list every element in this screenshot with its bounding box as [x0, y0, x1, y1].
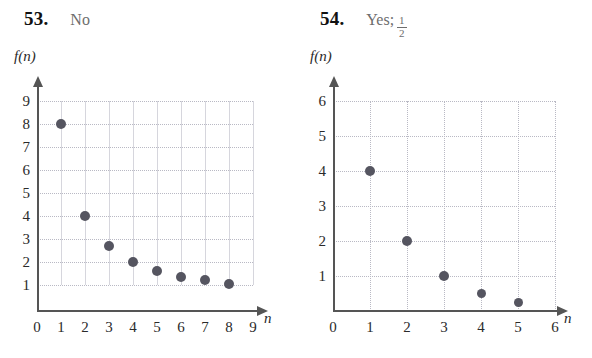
- x-tick-8: 8: [221, 320, 237, 335]
- y-tick-4: 4: [14, 209, 30, 224]
- data-point: [439, 271, 449, 281]
- x-axis-arrow-54: [557, 306, 568, 316]
- data-point: [200, 275, 210, 285]
- data-point: [365, 166, 375, 176]
- gridline-x-2: [85, 101, 86, 285]
- gridline-x-7: [205, 101, 206, 285]
- y-tick-2: 2: [14, 255, 30, 270]
- gridline-x-9: [253, 101, 254, 285]
- x-tick-6: 6: [173, 320, 189, 335]
- x-axis-line-53: [37, 310, 259, 312]
- data-point: [152, 266, 162, 276]
- y-tick-8: 8: [14, 117, 30, 132]
- data-point: [224, 279, 234, 289]
- data-point: [514, 298, 523, 307]
- x-tick-5: 5: [510, 320, 526, 335]
- y-tick-9: 9: [14, 94, 30, 109]
- y-axis-title-53: f(n): [14, 48, 36, 65]
- y-tick-6: 6: [14, 163, 30, 178]
- exercise-number: 54.: [320, 8, 344, 30]
- data-point: [128, 257, 138, 267]
- exercise-answer: Yes; 1 2: [366, 11, 406, 40]
- answer-text: Yes;: [366, 11, 394, 29]
- data-point: [104, 241, 114, 251]
- x-tick-1: 1: [53, 320, 69, 335]
- y-tick-1: 1: [310, 269, 326, 284]
- data-point: [402, 236, 412, 246]
- gridline-y-5: [37, 193, 253, 194]
- exercise-panel-53: 53. No f(n) n 9 8 7 6: [0, 0, 296, 358]
- gridline-y-9: [37, 101, 253, 102]
- x-tick-3: 3: [436, 320, 452, 335]
- exercise-number: 53.: [24, 8, 48, 30]
- x-tick-6: 6: [547, 320, 563, 335]
- gridline-y-4: [37, 216, 253, 217]
- gridline-y-8: [37, 124, 253, 125]
- data-point: [80, 211, 90, 221]
- x-tick-1: 1: [362, 320, 378, 335]
- gridline-x-6: [555, 101, 556, 311]
- gridline-y-3: [37, 239, 253, 240]
- x-tick-0: 0: [29, 320, 45, 335]
- y-axis-arrow-54: [329, 76, 339, 87]
- gridline-x-5: [157, 101, 158, 285]
- exercise-header-53: 53. No: [24, 8, 90, 30]
- answer-text: No: [70, 11, 90, 29]
- y-tick-3: 3: [14, 232, 30, 247]
- gridline-x-4: [481, 101, 482, 311]
- x-tick-4: 4: [125, 320, 141, 335]
- data-point: [56, 119, 66, 129]
- x-axis-line-54: [333, 310, 559, 312]
- data-point: [477, 289, 486, 298]
- gridline-y-2: [37, 262, 253, 263]
- gridline-y-1: [37, 285, 253, 286]
- x-tick-0: 0: [325, 320, 341, 335]
- y-axis-line-53: [37, 86, 39, 312]
- answer-fraction: 1 2: [397, 15, 407, 39]
- y-axis-arrow-53: [33, 76, 43, 87]
- y-tick-4: 4: [310, 164, 326, 179]
- y-axis-title-54: f(n): [310, 48, 332, 65]
- exercise-panel-54: 54. Yes; 1 2 f(n) n 6 5 4: [296, 0, 592, 358]
- y-tick-2: 2: [310, 234, 326, 249]
- x-tick-7: 7: [197, 320, 213, 335]
- y-tick-1: 1: [14, 278, 30, 293]
- gridline-x-6: [181, 101, 182, 285]
- x-axis-arrow-53: [257, 306, 268, 316]
- gridline-y-6: [37, 170, 253, 171]
- y-tick-3: 3: [310, 199, 326, 214]
- x-tick-4: 4: [473, 320, 489, 335]
- x-tick-2: 2: [77, 320, 93, 335]
- y-tick-7: 7: [14, 140, 30, 155]
- exercise-header-54: 54. Yes; 1 2: [320, 8, 407, 40]
- data-point: [176, 272, 186, 282]
- x-tick-3: 3: [101, 320, 117, 335]
- x-tick-5: 5: [149, 320, 165, 335]
- gridline-x-2: [407, 101, 408, 311]
- gridline-x-8: [229, 101, 230, 285]
- gridline-x-1: [370, 101, 371, 311]
- gridline-x-3: [109, 101, 110, 285]
- y-axis-line-54: [333, 86, 335, 312]
- fraction-denominator: 2: [397, 27, 407, 40]
- y-tick-5: 5: [14, 186, 30, 201]
- fraction-numerator: 1: [397, 15, 407, 27]
- x-tick-2: 2: [399, 320, 415, 335]
- y-tick-6: 6: [310, 94, 326, 109]
- x-tick-9: 9: [245, 320, 261, 335]
- gridline-x-5: [518, 101, 519, 311]
- y-tick-5: 5: [310, 129, 326, 144]
- gridline-y-7: [37, 147, 253, 148]
- exercise-answer: No: [70, 11, 90, 29]
